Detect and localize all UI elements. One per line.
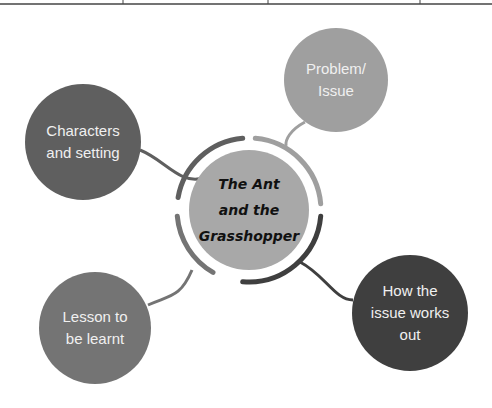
node-label-problem: Problem/ Issue bbox=[284, 28, 388, 132]
node-label-lesson: Lesson to be learnt bbox=[39, 272, 151, 384]
table-bottom-edge bbox=[0, 0, 492, 4]
node-label-characters: Characters and setting bbox=[25, 84, 141, 200]
connector-lesson bbox=[148, 270, 192, 305]
center-title: The Ant and the Grasshopper bbox=[189, 150, 309, 270]
node-label-resolution: How the issue works out bbox=[352, 255, 468, 371]
story-map-diagram: The Ant and the Grasshopper Characters a… bbox=[0, 0, 492, 408]
